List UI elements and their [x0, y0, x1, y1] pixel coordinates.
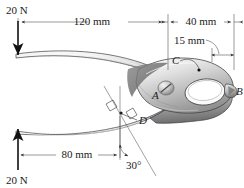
- point-label-A: A: [151, 89, 159, 101]
- leader-15mm: [206, 40, 219, 54]
- pliers-illustration: [16, 51, 237, 135]
- force-label-top: 20 N: [6, 4, 28, 16]
- pivot-pin-A: [158, 81, 174, 95]
- angle-label-30deg: 30°: [126, 159, 141, 171]
- dim-label-80mm: 80 mm: [62, 148, 93, 160]
- pliers-diagram: 20 N 20 N 120 mm 40 mm 15 mm 80 mm 30° A…: [0, 0, 244, 188]
- point-label-B: B: [236, 85, 243, 97]
- dim-label-40mm: 40 mm: [186, 15, 217, 27]
- right-angle-mark-2: [126, 108, 137, 119]
- point-label-D: D: [138, 114, 147, 126]
- dim-label-15mm: 15 mm: [174, 34, 205, 46]
- figure-canvas: 20 N 20 N 120 mm 40 mm 15 mm 80 mm 30° A…: [0, 0, 244, 188]
- force-label-bottom: 20 N: [6, 174, 28, 186]
- point-label-C: C: [172, 54, 180, 66]
- dim-label-120mm: 120 mm: [74, 15, 111, 27]
- leader-D: [122, 114, 137, 120]
- angle-arc-30deg: [120, 145, 128, 156]
